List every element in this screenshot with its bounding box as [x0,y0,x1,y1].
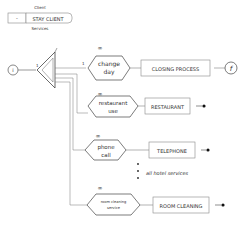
terminal-dot-icon [221,203,224,206]
svg-text:RESTAURANT: RESTAURANT [151,104,185,110]
services-label: Services [32,26,49,31]
process-closing: CLOSING PROCESS [141,60,210,76]
svg-text:call: call [101,152,111,158]
svg-text:phone: phone [97,144,115,151]
ellipsis-note: all hotel services [137,163,188,179]
svg-text:TELEPHONE: TELEPHONE [156,148,187,154]
event-phone-call: ∞ phone call [85,132,126,160]
branch-multiplicity-2: 1 [82,61,85,66]
split-triangle [37,48,57,88]
multiplicity-icon: ∞ [98,44,103,51]
client-label: Client [34,5,46,10]
svg-text:day: day [103,68,114,76]
svg-text:restaurant: restaurant [99,100,129,106]
svg-text:ROOM CLEANING: ROOM CLEANING [160,203,203,209]
event-restaurant-use: ∞ restaurant use [88,90,138,117]
svg-text:use: use [108,108,118,114]
multiplicity-icon: ∞ [96,132,101,139]
svg-text:change: change [98,60,120,68]
svg-text:CLOSING PROCESS: CLOSING PROCESS [152,66,199,72]
multiplicity-icon: ∞ [98,184,103,191]
branch-connectors [55,68,88,205]
start-node: i [8,65,18,75]
process-telephone: TELEPHONE [149,142,195,158]
process-restaurant: RESTAURANT [145,98,190,114]
branch-multiplicity: 1 [36,63,39,68]
terminal-dot-icon [202,104,205,107]
stay-client-title: STAY CLIENT [32,16,64,22]
prefix-label: - [16,15,18,21]
event-change-day: ∞ change day [88,44,130,80]
terminal-dot-icon [206,148,209,151]
process-room-cleaning: ROOM CLEANING [153,197,209,213]
event-room-cleaning: ∞ room cleaning service [87,184,140,215]
svg-text:room cleaning: room cleaning [101,200,127,204]
svg-text:all hotel services: all hotel services [146,170,189,176]
svg-text:service: service [107,206,121,210]
diagram-canvas: Client - STAY CLIENT Services i 1 1 ∞ ch… [0,0,248,227]
svg-text:i: i [12,67,13,73]
end-node: f [225,62,237,74]
header-block: Client - STAY CLIENT Services [8,5,72,31]
